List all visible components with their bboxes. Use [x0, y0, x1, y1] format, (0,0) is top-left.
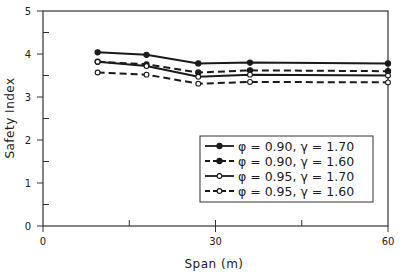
filled-circle-marker	[196, 61, 201, 66]
series-layer	[95, 50, 391, 86]
series-2	[95, 59, 391, 75]
y-tick-label: 2	[25, 135, 31, 146]
y-tick-label: 4	[25, 49, 31, 60]
y-tick-labels: 0 1 2 3 4 5	[25, 6, 31, 232]
open-circle-marker	[144, 64, 149, 69]
x-axis-label: Span (m)	[184, 257, 243, 271]
filled-circle-marker	[144, 52, 149, 57]
open-circle-marker	[196, 74, 201, 79]
open-circle-marker	[144, 72, 149, 77]
x-tick-labels: 0 30 60	[40, 236, 395, 247]
filled-circle-marker	[95, 50, 100, 55]
open-circle-marker	[217, 174, 222, 179]
open-circle-marker	[95, 59, 100, 64]
x-tick-label: 60	[382, 236, 395, 247]
x-tick-label: 30	[209, 236, 222, 247]
filled-circle-marker	[247, 60, 252, 65]
series-line	[98, 52, 388, 63]
y-tick-label: 5	[25, 6, 31, 17]
open-circle-marker	[386, 73, 391, 78]
series-4	[95, 70, 390, 86]
legend-label-4: φ = 0.95, γ = 1.60	[238, 184, 354, 199]
open-circle-marker	[248, 80, 253, 85]
legend: φ = 0.90, γ = 1.70 φ = 0.90, γ = 1.60 φ …	[200, 136, 373, 202]
y-tick-label: 3	[25, 92, 31, 103]
series-1	[95, 50, 391, 66]
filled-circle-marker	[217, 143, 222, 148]
open-circle-marker	[95, 70, 100, 75]
open-circle-marker	[386, 80, 391, 85]
open-circle-marker	[217, 189, 222, 194]
open-circle-marker	[248, 72, 253, 77]
legend-label-1: φ = 0.90, γ = 1.70	[238, 139, 354, 154]
legend-label-2: φ = 0.90, γ = 1.60	[238, 154, 354, 169]
legend-label-3: φ = 0.95, γ = 1.70	[238, 169, 354, 184]
filled-circle-marker	[385, 61, 390, 66]
safety-index-chart: 0 1 2 3 4 5 0 30 60 Span (m) Safety Inde…	[0, 0, 401, 278]
open-circle-marker	[196, 81, 201, 86]
filled-circle-marker	[217, 158, 222, 163]
y-tick-label: 0	[25, 221, 31, 232]
y-tick-label: 1	[25, 178, 31, 189]
y-axis-label: Safety Index	[3, 77, 17, 158]
x-tick-label: 0	[40, 236, 46, 247]
